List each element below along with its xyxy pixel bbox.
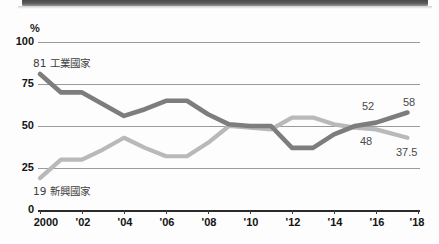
chart-plot-area: % 100 75 50 25 0 [0, 0, 439, 244]
annotation-emerging-start: 19 新興國家 [33, 183, 90, 198]
annotation-industrial-end: 58 [403, 96, 415, 108]
chart-series-svg [0, 0, 439, 244]
chart-root: % 100 75 50 25 0 [0, 0, 439, 244]
annotation-industrial-mid: 52 [362, 100, 374, 112]
annotation-industrial-start: 81 工業國家 [33, 55, 90, 70]
series-line-industrial [40, 74, 408, 148]
annotation-emerging-mid: 48 [360, 135, 372, 147]
annotation-emerging-end: 37.5 [396, 146, 417, 158]
